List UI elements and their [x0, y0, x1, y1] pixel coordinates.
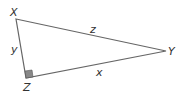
vertex-label-x: X: [9, 6, 18, 19]
side-label-z: z: [89, 23, 96, 36]
vertex-label-z: Z: [22, 81, 31, 93]
side-label-x: x: [95, 66, 103, 79]
side-label-y: y: [10, 43, 18, 56]
right-angle-marker: [25, 70, 33, 78]
triangle-diagram: X Y Z z y x: [0, 0, 183, 93]
vertex-label-y: Y: [168, 45, 176, 58]
